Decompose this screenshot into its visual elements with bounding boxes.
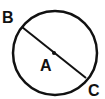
center-point-a xyxy=(52,51,56,55)
label-c: C xyxy=(88,82,100,99)
diagram-canvas: B A C xyxy=(0,0,105,99)
label-b: B xyxy=(2,9,14,26)
circle-diagram: B A C xyxy=(0,0,105,99)
label-a: A xyxy=(40,57,52,74)
